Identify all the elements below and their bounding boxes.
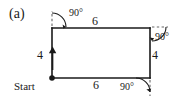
start-point-dot bbox=[49, 75, 55, 81]
side-length-left: 4 bbox=[37, 49, 43, 61]
side-length-right: 4 bbox=[152, 49, 158, 61]
start-point-label: Start bbox=[14, 81, 35, 92]
turn-angle-top-left: 90° bbox=[69, 8, 83, 18]
side-length-bottom: 6 bbox=[93, 79, 99, 91]
angle-arc-top-left bbox=[52, 13, 66, 27]
turn-angle-top-right: 90° bbox=[155, 32, 169, 42]
side-length-top: 6 bbox=[92, 15, 98, 27]
panel-label: (a) bbox=[9, 7, 25, 21]
turn-angle-bottom-right: 90° bbox=[120, 82, 134, 92]
direction-arrow-left-edge bbox=[49, 47, 56, 70]
geometry-figure-panel-a: (a) 6 6 4 4 90° 90° 90° Start bbox=[0, 0, 182, 102]
